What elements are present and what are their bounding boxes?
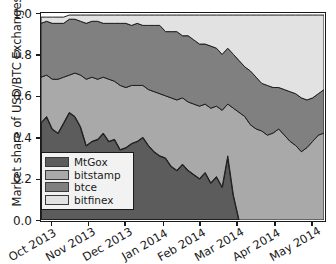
x-tick-mark — [199, 222, 200, 226]
legend-swatch-icon — [45, 182, 69, 192]
legend-swatch-icon — [45, 157, 69, 167]
legend-item-bitstamp[interactable]: bitstamp — [45, 169, 129, 182]
legend-label: MtGox — [74, 157, 108, 168]
legend[interactable]: MtGoxbitstampbtcebitfinex — [41, 152, 134, 210]
legend-swatch-icon — [45, 195, 69, 205]
legend-label: btce — [74, 182, 97, 193]
legend-label: bitfinex — [74, 195, 113, 206]
legend-item-btce[interactable]: btce — [45, 181, 129, 194]
legend-swatch-icon — [45, 170, 69, 180]
x-tick-mark — [274, 222, 275, 226]
x-tick-mark — [163, 222, 164, 226]
x-tick-mark — [311, 222, 312, 226]
x-tick-mark — [236, 222, 237, 226]
legend-label: bitstamp — [74, 170, 121, 181]
x-tick-mark — [124, 222, 125, 226]
legend-item-bitfinex[interactable]: bitfinex — [45, 194, 129, 207]
x-tick-mark — [88, 222, 89, 226]
legend-item-mtgox[interactable]: MtGox — [45, 156, 129, 169]
x-tick-mark — [51, 222, 52, 226]
